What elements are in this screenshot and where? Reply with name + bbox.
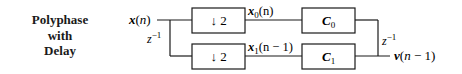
output-label: v(n − 1) <box>394 48 435 63</box>
filter-label-c1: C1 <box>322 49 335 66</box>
signal-label-x1: x1(n − 1) <box>247 40 293 56</box>
filter-label-c0: C0 <box>322 13 336 30</box>
downsampler-label-1: ↓ 2 <box>210 49 226 64</box>
downsampler-label-0: ↓ 2 <box>210 13 226 28</box>
polyphase-diagram: x(n) z−1 ↓ 2 ↓ 2 x0(n) x1(n − 1) C0 C1 z… <box>0 0 462 74</box>
input-delay-label: z−1 <box>146 30 161 46</box>
output-delay-label: z−1 <box>381 32 396 48</box>
signal-label-x0: x0(n) <box>247 4 273 20</box>
input-label: x(n) <box>128 12 151 27</box>
